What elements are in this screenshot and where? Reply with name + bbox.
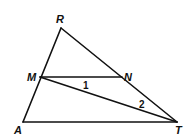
vertex-label-M: M: [27, 71, 37, 83]
angle-label-2: 2: [139, 99, 145, 110]
segment-RT: [61, 28, 177, 122]
vertex-label-A: A: [13, 124, 22, 136]
vertex-label-T: T: [175, 124, 183, 136]
vertex-label-N: N: [124, 71, 133, 83]
angle-label-1: 1: [83, 80, 89, 91]
segment-MT: [40, 77, 177, 122]
triangle-diagram: R M N A T 1 2: [0, 0, 196, 139]
vertex-label-R: R: [56, 13, 64, 25]
